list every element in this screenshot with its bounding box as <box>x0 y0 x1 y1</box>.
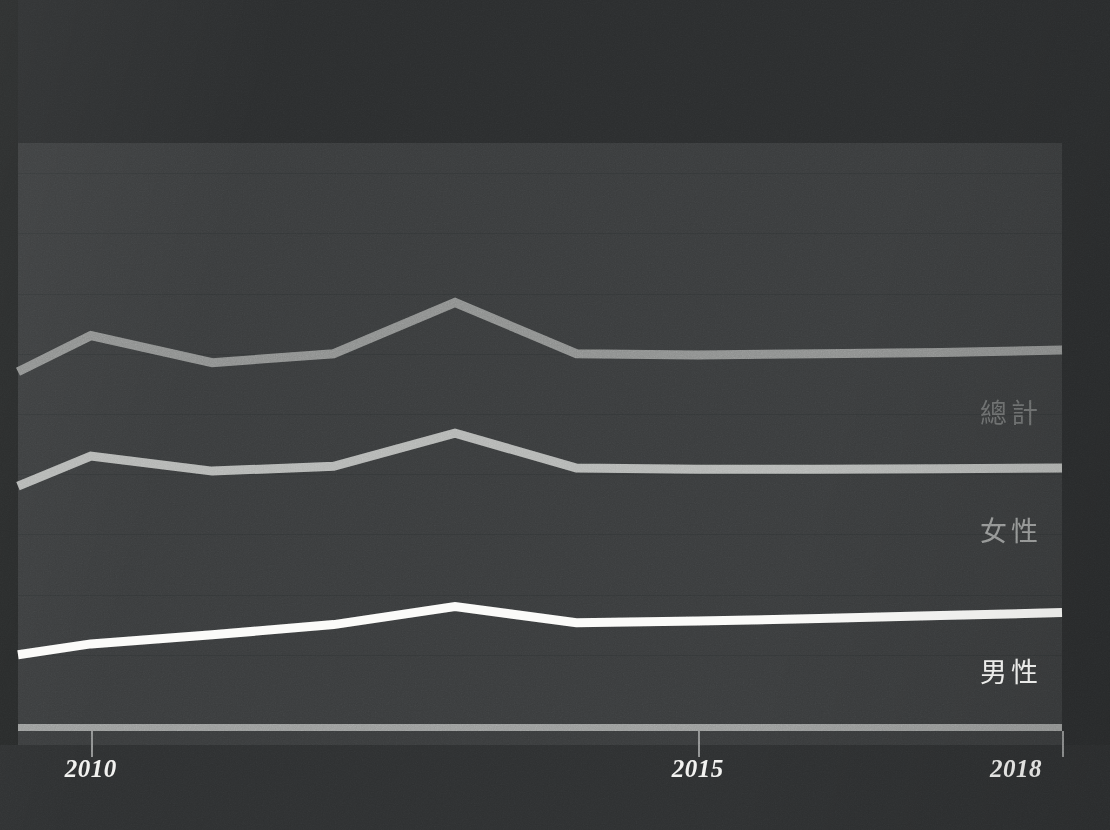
series-lines <box>0 0 1110 830</box>
x-tick-label-2010: 2010 <box>65 755 117 783</box>
series-line-女性 <box>18 433 1062 486</box>
chart-canvas: 201020152018 總計女性男性 <box>0 0 1110 830</box>
series-label-男性: 男性 <box>980 651 1042 690</box>
x-tick-2010 <box>91 731 93 757</box>
series-label-總計: 總計 <box>980 392 1042 431</box>
x-tick-label-2018: 2018 <box>990 755 1042 783</box>
x-tick-2015 <box>698 731 700 757</box>
series-line-男性 <box>18 607 1062 655</box>
series-label-女性: 女性 <box>980 510 1042 549</box>
x-axis-line <box>18 724 1062 731</box>
x-tick-2018 <box>1062 731 1064 757</box>
x-tick-label-2015: 2015 <box>672 755 724 783</box>
series-line-總計 <box>18 303 1062 372</box>
